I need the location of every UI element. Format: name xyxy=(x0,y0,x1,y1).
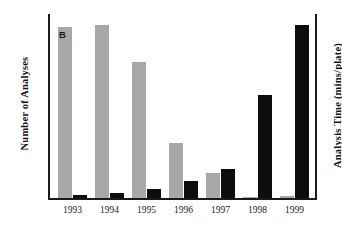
bar-b-1999 xyxy=(280,196,295,198)
x-tick-label-1993: 1993 xyxy=(53,205,93,215)
bar-chart-figure: Number of Analyses Analysis Time (mins/p… xyxy=(0,0,342,232)
bar-b-1994 xyxy=(95,25,110,199)
bars-layer xyxy=(48,14,317,199)
x-tick-label-1996: 1996 xyxy=(164,205,204,215)
x-axis-tick-labels: 1993199419951996199719981999 xyxy=(48,205,317,223)
bar-a-1995 xyxy=(147,189,162,198)
series-callout-b: B xyxy=(59,30,66,40)
y-axis-right-title: Analysis Time (mins/plate) xyxy=(332,31,342,181)
bar-a-1997 xyxy=(221,169,236,199)
bar-a-1994 xyxy=(110,193,125,199)
series-callout-a: A xyxy=(286,28,293,38)
bar-a-1998 xyxy=(258,95,273,199)
bar-a-1999 xyxy=(295,25,310,199)
bar-b-1993 xyxy=(58,27,73,198)
bar-a-1993 xyxy=(73,195,88,198)
x-tick-label-1994: 1994 xyxy=(90,205,130,215)
bar-a-1996 xyxy=(184,181,199,199)
x-tick-label-1999: 1999 xyxy=(275,205,315,215)
bar-b-1995 xyxy=(132,62,147,199)
x-tick-label-1995: 1995 xyxy=(127,205,167,215)
plot-area: B A xyxy=(48,14,317,200)
x-tick-label-1997: 1997 xyxy=(201,205,241,215)
x-tick-label-1998: 1998 xyxy=(238,205,278,215)
bar-b-1996 xyxy=(169,143,184,199)
bar-b-1997 xyxy=(206,173,221,198)
y-axis-left-title: Number of Analyses xyxy=(19,34,30,174)
bar-b-1998 xyxy=(243,197,258,199)
